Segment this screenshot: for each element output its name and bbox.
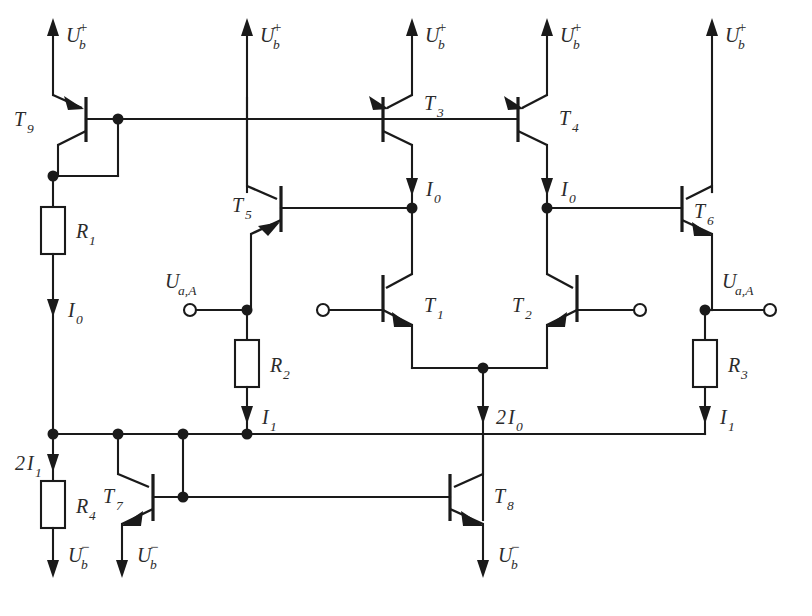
current-I0-T3-label: I: [425, 178, 434, 200]
terminal-Ua-A-left-circle[interactable]: [184, 304, 196, 316]
transistor-T4-label: T: [559, 107, 572, 129]
wire-negative-rail: [48, 429, 706, 440]
transistor-T7-label: T: [103, 485, 116, 507]
resistor-R3-body: [693, 340, 717, 387]
transistor-T4[interactable]: T 4: [504, 95, 579, 208]
resistor-R2-sub: 2: [283, 367, 290, 382]
current-I0-T4-label: I: [560, 178, 569, 200]
current-I1-R2-label: I: [261, 406, 270, 428]
node-rail-4: [242, 429, 253, 440]
transistor-T6-label: T: [694, 200, 707, 222]
supply-negative-sup-1: −: [81, 539, 89, 555]
supply-positive-sub-4: b: [573, 37, 580, 52]
current-I1-R2-sub: 1: [270, 419, 277, 434]
transistor-T8-sub: 8: [507, 498, 514, 513]
terminal-input-left-circle[interactable]: [317, 304, 329, 316]
supply-positive-5: U b +: [706, 18, 746, 192]
supply-negative-sub-3: b: [511, 557, 518, 572]
transistor-T2-sub: 2: [525, 307, 532, 322]
supply-positive-1: U b +: [47, 18, 87, 95]
supply-positive-sup-2: +: [273, 19, 281, 35]
node-T7-base: [178, 492, 189, 503]
resistor-R3-label: R: [727, 354, 740, 376]
supply-negative-sup-2: −: [150, 539, 158, 555]
transistor-T6[interactable]: T 6: [682, 186, 714, 310]
resistor-R1-sub: 1: [89, 233, 96, 248]
node-diffpair-tail: [478, 363, 489, 374]
transistor-T5-label: T: [232, 194, 245, 216]
transistor-T4-sub: 4: [572, 120, 579, 135]
resistor-R1-body: [41, 207, 65, 254]
current-2I1-label: I: [26, 452, 35, 474]
terminal-input-right[interactable]: [634, 304, 646, 316]
transistor-T3[interactable]: T 3: [369, 92, 444, 208]
current-I0-left-sub: 0: [76, 312, 83, 327]
current-I0-left-label: I: [67, 299, 76, 321]
transistor-T2-label: T: [512, 294, 525, 316]
current-I1-R3-sub: 1: [728, 419, 735, 434]
supply-positive-sup-5: +: [738, 19, 746, 35]
resistor-R3-sub: 3: [740, 367, 748, 382]
transistor-T5[interactable]: T 5: [232, 98, 412, 310]
supply-rail-positive-group: U b + U b + U b + U b +: [47, 18, 746, 192]
terminal-Ua-A-left-sub: a,A: [178, 283, 197, 298]
resistor-R2-body: [235, 340, 259, 387]
terminal-Ua-A-right-sub: a,A: [735, 283, 754, 298]
transistor-T9-sub: 9: [27, 121, 34, 136]
supply-negative-sup-3: −: [511, 539, 519, 555]
schematic-canvas: U b + U b + U b + U b +: [0, 0, 812, 616]
resistor-R4-label: R: [75, 495, 88, 517]
terminal-input-right-circle[interactable]: [634, 304, 646, 316]
resistor-R4-body: [41, 481, 65, 528]
supply-positive-sub-2: b: [273, 37, 280, 52]
transistor-T1[interactable]: T 1: [323, 208, 444, 368]
terminal-Ua-A-right[interactable]: U a,A: [705, 270, 776, 316]
supply-positive-sub-3: b: [438, 37, 445, 52]
current-2I1-sub: 1: [35, 465, 42, 480]
terminal-Ua-A-left[interactable]: U a,A: [165, 270, 247, 316]
circuit-diagram: U b + U b + U b + U b +: [0, 0, 812, 616]
current-I1-R3-label: I: [719, 406, 728, 428]
supply-positive-sub-5: b: [738, 37, 745, 52]
transistor-T9-label: T: [14, 108, 27, 130]
transistor-T6-sub: 6: [707, 213, 714, 228]
resistor-R2-label: R: [269, 354, 282, 376]
supply-negative-sub-2: b: [150, 557, 157, 572]
transistor-T2[interactable]: T 2: [512, 208, 640, 368]
current-2I1-prefix: 2: [15, 452, 25, 474]
supply-rail-negative-group: U b − U b − U b −: [47, 539, 519, 578]
wire-T7-base-tie: [178, 434, 189, 503]
supply-negative-sub-1: b: [81, 557, 88, 572]
transistor-T1-label: T: [424, 294, 437, 316]
transistor-T7-sub: 7: [116, 498, 124, 513]
current-I0-T4-sub: 0: [569, 191, 576, 206]
supply-positive-sup-3: +: [438, 19, 446, 35]
current-2I0-prefix: 2: [496, 406, 506, 428]
resistor-R1-label: R: [75, 220, 88, 242]
current-2I0-label: I: [507, 406, 516, 428]
supply-positive-sup-1: +: [79, 19, 87, 35]
supply-positive-sub-1: b: [79, 37, 86, 52]
supply-positive-3: U b +: [406, 18, 446, 95]
transistor-T5-sub: 5: [245, 207, 252, 222]
transistor-T3-sub: 3: [436, 105, 444, 120]
supply-positive-4: U b +: [541, 18, 581, 95]
transistor-T8-label: T: [494, 485, 507, 507]
supply-positive-sup-4: +: [573, 19, 581, 35]
transistor-T1-sub: 1: [437, 307, 444, 322]
current-2I0-sub: 0: [516, 419, 523, 434]
terminal-Ua-A-right-circle[interactable]: [764, 304, 776, 316]
current-I0-T3-sub: 0: [434, 191, 441, 206]
transistor-T9[interactable]: T 9: [14, 95, 140, 176]
transistor-T3-label: T: [424, 92, 437, 114]
terminal-input-left[interactable]: [317, 304, 329, 316]
resistor-R4-sub: 4: [89, 508, 96, 523]
